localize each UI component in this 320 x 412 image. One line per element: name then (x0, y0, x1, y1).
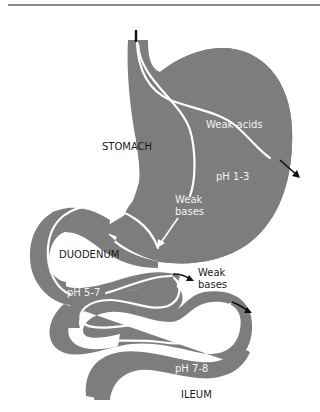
gi-tract-diagram: Weak acids STOMACH pH 1-3 Weak bases DUO… (0, 0, 320, 412)
duodenum-label: DUODENUM (59, 249, 119, 260)
weak-bases-stomach-label-2: bases (175, 206, 204, 217)
weak-bases-intestine-label-2: bases (198, 279, 227, 290)
weak-bases-intestine-label-1: Weak (198, 267, 226, 278)
ileum-label: ILEUM (181, 389, 212, 400)
ph-stomach-label: pH 1-3 (216, 171, 249, 182)
weak-acids-label: Weak acids (206, 119, 263, 130)
ph-ileum-label: pH 7-8 (175, 363, 208, 374)
weak-bases-stomach-label-1: Weak (175, 194, 203, 205)
ph-duodenum-label: pH 5-7 (67, 287, 100, 298)
stomach-label: STOMACH (102, 141, 152, 152)
